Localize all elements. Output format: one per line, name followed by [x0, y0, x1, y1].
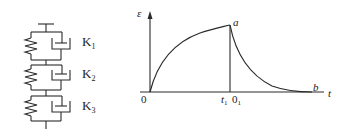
y-axis-label: ε [137, 7, 142, 19]
label-k3: K3 [82, 98, 95, 115]
o1-label: 01 [232, 93, 242, 107]
label-k2: K2 [82, 66, 95, 83]
point-b-label: b [313, 81, 319, 93]
element-labels: K1 K2 K3 [82, 34, 95, 115]
origin-label: 0 [141, 93, 147, 105]
label-k1: K1 [82, 34, 95, 51]
spring-icon [25, 38, 37, 54]
figure-canvas: K1 K2 K3 ε t 0 a b t1 01 [0, 0, 350, 136]
kelvin-element-3 [25, 96, 70, 129]
strain-time-graph [140, 11, 324, 92]
dashpot-icon [52, 70, 70, 80]
kelvin-element-1 [25, 32, 70, 65]
t1-label: t1 [221, 93, 228, 107]
x-axis-label: t [328, 87, 332, 99]
creep-curve [150, 25, 230, 92]
recovery-curve [230, 25, 312, 92]
spring-icon [25, 100, 37, 116]
kelvin-chain-model [25, 24, 70, 129]
spring-icon [25, 69, 37, 85]
kelvin-element-2 [25, 65, 70, 96]
point-a-label: a [233, 16, 239, 28]
y-axis-arrow-icon [148, 11, 153, 19]
